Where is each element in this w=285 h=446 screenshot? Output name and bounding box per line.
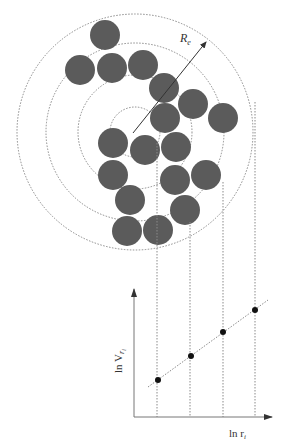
particle [130, 135, 160, 165]
particle [170, 195, 200, 225]
particle [150, 103, 180, 133]
particle [112, 216, 142, 246]
particle [115, 185, 145, 215]
concentric-circle-3 [17, 14, 253, 250]
fractal-diagram: Re ln Vri ln ri [0, 0, 285, 446]
data-point [155, 377, 161, 383]
particle [191, 160, 221, 190]
particle [178, 89, 208, 119]
data-point [188, 353, 194, 359]
particle [149, 73, 179, 103]
radius-label: Re [179, 31, 191, 47]
particle [65, 55, 95, 85]
x-axis-label: ln ri [229, 427, 246, 441]
data-point [252, 307, 258, 313]
trend-line [148, 300, 268, 387]
particle [98, 128, 128, 158]
particle [161, 132, 191, 162]
particle [90, 20, 120, 50]
y-axis-label: ln Vri [112, 349, 127, 373]
data-point [220, 329, 226, 335]
particle [160, 165, 190, 195]
particle [98, 160, 128, 190]
particle [143, 215, 173, 245]
particle [97, 53, 127, 83]
concentric-circles [17, 14, 253, 250]
particle [128, 50, 158, 80]
particle-cluster [65, 20, 238, 246]
particle [208, 103, 238, 133]
